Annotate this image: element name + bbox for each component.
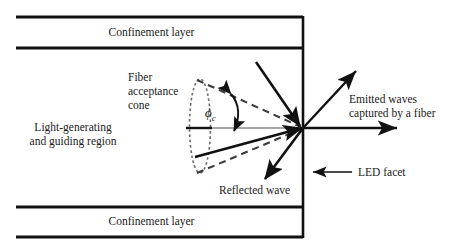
phi-subscript-c: c bbox=[212, 113, 216, 123]
reflected-wave-label: Reflected wave bbox=[219, 183, 290, 197]
led-facet-label: LED facet bbox=[358, 165, 406, 179]
fiber-acceptance-cone-label: Fiber acceptance cone bbox=[128, 70, 190, 112]
critical-angle-arc bbox=[231, 94, 238, 131]
critical-angle-symbol-label: ϕc bbox=[205, 106, 216, 125]
phi-glyph: ϕ bbox=[205, 105, 212, 120]
cone-boundary-rays bbox=[197, 80, 301, 173]
led-fiber-coupling-diagram: Confinement layer Confinement layer Ligh… bbox=[0, 0, 455, 252]
emitted-waves-label: Emitted waves captured by a fiber bbox=[349, 92, 455, 120]
confinement-layer-bottom-label: Confinement layer bbox=[0, 214, 303, 228]
cone-base-ellipse bbox=[190, 79, 211, 173]
confinement-layer-top-label: Confinement layer bbox=[0, 25, 303, 39]
light-generating-region-label: Light-generating and guiding region bbox=[18, 120, 128, 148]
phi-c-arc-path bbox=[231, 94, 238, 131]
fiber-acceptance-cone bbox=[186, 79, 303, 173]
